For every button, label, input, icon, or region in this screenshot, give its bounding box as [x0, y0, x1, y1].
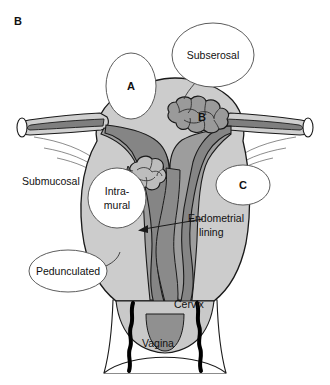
callout-label-subserosal: Subserosal [187, 49, 240, 61]
label-submucosal: Submucosal [22, 175, 80, 187]
fimbria-right [303, 118, 313, 137]
label-endometrial-line1: Endometrial [188, 212, 244, 224]
callout-label-c: C [239, 179, 247, 191]
label-cervix: Cervix [174, 298, 205, 310]
callout-label-b: B [198, 111, 206, 123]
fimbria-left [17, 118, 27, 137]
label-vagina: Vagina [142, 337, 174, 349]
callout-label-intramural-line1: Intra- [105, 185, 130, 197]
callout-label-pedunculated: Pedunculated [36, 265, 100, 277]
figure-container: B A Subserosal B C Intra- mural Peduncul… [0, 0, 330, 385]
uterus-fibroid-diagram: B A Subserosal B C Intra- mural Peduncul… [0, 0, 330, 385]
panel-label-b: B [14, 15, 22, 27]
callout-label-intramural-line2: mural [104, 199, 130, 211]
callout-intramural-ellipse[interactable] [88, 168, 146, 228]
callout-label-a: A [127, 80, 135, 92]
label-endometrial-line2: lining [199, 226, 224, 238]
